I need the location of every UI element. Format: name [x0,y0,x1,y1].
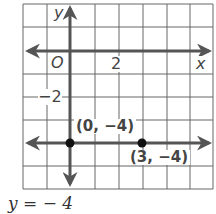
y-axis-label: y [54,5,63,21]
coordinate-grid [0,0,216,214]
origin-label: O [51,55,64,71]
point-label-3-neg4: (3, −4) [128,150,190,165]
tick-label-y-neg2: −2 [38,89,62,105]
tick-label-x-2: 2 [111,56,121,72]
point-3-neg4 [138,139,147,148]
point-0-neg4 [66,139,75,148]
point-label-0-neg4: (0, −4) [74,119,136,134]
equation-label: y = − 4 [8,193,73,213]
x-axis-label: x [196,56,205,72]
